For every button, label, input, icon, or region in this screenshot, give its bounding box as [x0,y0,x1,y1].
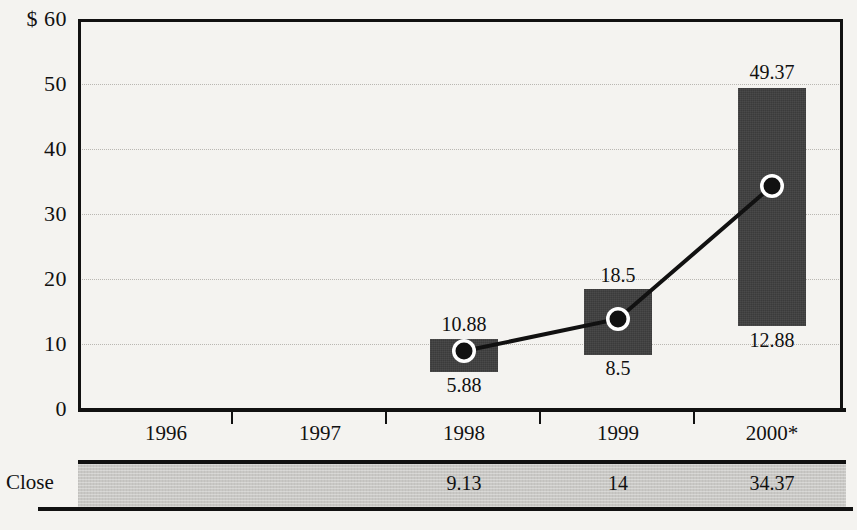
y-tick-label-30: 30 [0,203,67,225]
bar-label-low-1998: 5.88 [404,374,524,396]
bar-label-low-2000: 12.88 [712,329,832,351]
bar-label-high-1999: 18.5 [558,264,678,286]
bar-label-high-1998: 10.88 [404,313,524,335]
x-tick-label-2000: 2000* [707,421,837,445]
x-tick-1 [231,412,233,424]
close-row-label: Close [6,470,72,494]
y-tick-label-50: 50 [0,73,67,95]
close-value-2000: 34.37 [707,471,837,495]
y-tick-label-20: 20 [0,268,67,290]
y-tick-label-0: 0 [0,398,67,420]
chart-canvas: $ 60 50 40 30 20 10 0 10.88 5.88 18.5 8.… [0,0,857,530]
x-tick-label-1997: 1997 [255,421,385,445]
y-tick-label-60: $ 60 [0,8,67,30]
y-tick-label-40: 40 [0,138,67,160]
bar-label-low-1999: 8.5 [558,357,678,379]
x-axis-line [78,408,846,412]
x-tick-label-1998: 1998 [399,421,529,445]
close-row-bottom-rule [38,507,853,511]
bar-label-high-2000: 49.37 [712,61,832,83]
x-tick-3 [539,412,541,424]
x-tick-label-1999: 1999 [553,421,683,445]
bar-1999 [584,289,652,355]
x-tick-4 [693,412,695,424]
close-value-1999: 14 [553,471,683,495]
bar-2000 [738,88,806,326]
x-tick-2 [385,412,387,424]
bar-1998 [430,339,498,372]
close-value-1998: 9.13 [399,471,529,495]
y-tick-label-10: 10 [0,333,67,355]
x-tick-label-1996: 1996 [101,421,231,445]
